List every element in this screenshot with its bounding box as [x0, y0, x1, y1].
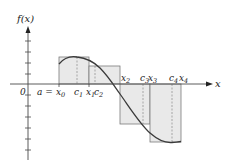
a-equals-label: a =: [37, 87, 53, 97]
origin-label: 0: [20, 87, 26, 97]
x-axis-arrow-icon: [206, 82, 213, 87]
x2-label: x2: [121, 73, 130, 85]
rectangle-2: [89, 66, 120, 84]
c4-label: c4: [169, 73, 178, 85]
x4-label: x4: [179, 73, 188, 85]
c2-label: c2: [94, 87, 103, 99]
y-axis-label: f(x): [16, 13, 34, 24]
rectangle-4: [150, 84, 181, 142]
x3-label: x3: [148, 73, 157, 85]
x-axis-label: x: [215, 78, 221, 89]
c1-label: c1: [74, 87, 83, 99]
x0-label: x0: [56, 87, 65, 99]
rectangle-1: [59, 57, 89, 84]
rectangle-3: [120, 84, 150, 124]
y-axis-arrow-icon: [26, 26, 31, 33]
riemann-sum-diagram: f(x) x 0 a = x0 c1 x1 c2 x2 c3 x3 c4 x4: [0, 0, 231, 163]
labels: f(x) x 0 a = x0 c1 x1 c2 x2 c3 x3 c4 x4: [16, 13, 221, 99]
rectangles: [59, 57, 181, 142]
